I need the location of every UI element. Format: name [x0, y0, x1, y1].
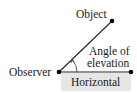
horizontal-label: Horizontal	[71, 76, 120, 88]
object-point	[110, 19, 115, 24]
angle-label-line2: elevation	[87, 57, 129, 69]
angle-of-elevation-diagram: Object Observer Angle of elevation Horiz…	[0, 0, 137, 93]
observer-point	[57, 70, 62, 75]
observer-label: Observer	[9, 66, 51, 78]
horizontal-endpoint	[129, 70, 134, 75]
object-label: Object	[76, 8, 107, 21]
angle-arc	[73, 60, 78, 72]
